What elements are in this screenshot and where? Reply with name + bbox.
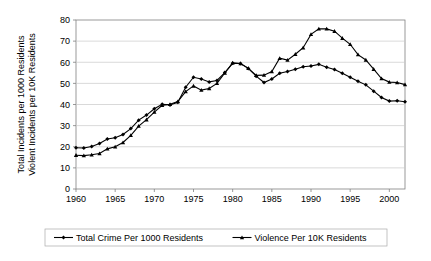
x-tick-label: 1995 — [340, 194, 360, 204]
y-axis-title: Total Incidents per 1000 ResidentsViolen… — [16, 33, 37, 176]
x-tick-label: 1975 — [183, 194, 203, 204]
x-tick-label: 1990 — [301, 194, 321, 204]
x-tick-label: 1965 — [105, 194, 125, 204]
y-tick-label: 80 — [60, 15, 70, 25]
y-tick-label: 40 — [60, 100, 70, 110]
y-tick-label: 50 — [60, 79, 70, 89]
chart-legend: Total Crime Per 1000 ResidentsViolence P… — [45, 229, 387, 246]
y-tick-label: 10 — [60, 163, 70, 173]
y-axis-title-line: Violent Incidents per 10K Residents — [27, 33, 37, 176]
y-axis-title-line: Total Incidents per 1000 Residents — [16, 35, 26, 174]
legend-item[interactable]: Total Crime Per 1000 Residents — [54, 233, 204, 243]
y-tick-label: 20 — [60, 142, 70, 152]
crime-trend-chart: 0102030405060708019601965197019751980198… — [0, 0, 431, 261]
x-tick-label: 1970 — [144, 194, 164, 204]
y-tick-label: 70 — [60, 36, 70, 46]
x-axis: 196019651970197519801985199019952000 — [66, 189, 399, 204]
chart-canvas: 0102030405060708019601965197019751980198… — [0, 0, 431, 261]
legend-label: Violence Per 10K Residents — [255, 233, 367, 243]
x-tick-label: 1985 — [262, 194, 282, 204]
y-tick-label: 0 — [65, 184, 70, 194]
x-tick-label: 2000 — [379, 194, 399, 204]
y-tick-label: 30 — [60, 121, 70, 131]
legend-label: Total Crime Per 1000 Residents — [76, 233, 204, 243]
x-tick-label: 1960 — [66, 194, 86, 204]
x-tick-label: 1980 — [223, 194, 243, 204]
y-tick-label: 60 — [60, 58, 70, 68]
y-axis: 01020304050607080 — [60, 15, 76, 194]
